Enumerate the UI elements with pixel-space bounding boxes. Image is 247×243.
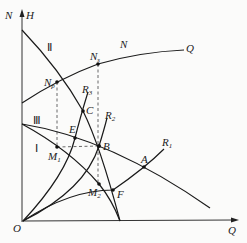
horizontal-axis [22, 220, 234, 221]
label-a: A [140, 153, 148, 165]
label-power-q: Q [186, 42, 194, 54]
point-b [97, 144, 101, 148]
pump-characteristic-diagram: N H Q O Ⅱ Ⅲ Ⅰ N Q R3 R2 R1 Np Ns C E B A… [0, 0, 247, 243]
label-power-n: N [119, 38, 128, 50]
horizontal-axis-arrow-icon [231, 218, 239, 223]
label-curve-iii: Ⅲ [33, 114, 41, 126]
point-c [81, 109, 85, 113]
point-np [55, 80, 59, 84]
point-m2 [97, 182, 101, 186]
point-m1 [55, 145, 59, 149]
origin-label: O [13, 222, 21, 234]
axis-label-h: H [25, 9, 35, 21]
label-b: B [103, 140, 110, 152]
vertical-axis-arrow-icon [20, 9, 25, 17]
point-e [73, 136, 77, 140]
dash-m1-b [57, 146, 99, 147]
label-r3: R3 [81, 83, 93, 97]
label-ns: Ns [89, 50, 100, 64]
label-r2: R2 [104, 109, 116, 123]
label-r1: R1 [161, 136, 172, 150]
axis-label-q: Q [228, 224, 236, 236]
label-curve-ii: Ⅱ [47, 41, 52, 53]
diagram-canvas: N H Q O Ⅱ Ⅲ Ⅰ N Q R3 R2 R1 Np Ns C E B A… [0, 0, 247, 243]
point-f [111, 188, 115, 192]
label-m2: M2 [87, 186, 101, 200]
label-f: F [116, 188, 124, 200]
label-m1: M1 [47, 150, 61, 164]
label-np: Np [43, 76, 55, 90]
label-curve-i: Ⅰ [35, 142, 38, 154]
label-e: E [68, 123, 76, 135]
label-c: C [86, 104, 94, 116]
head-curve-iii [22, 124, 210, 208]
axis-label-n: N [4, 9, 13, 21]
point-a [142, 165, 146, 169]
